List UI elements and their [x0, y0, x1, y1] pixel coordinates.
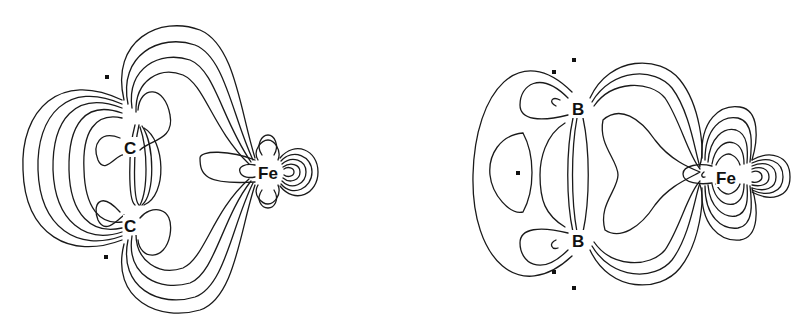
marker-square — [572, 286, 576, 290]
marker-square — [104, 255, 108, 259]
contour-diagram: C C Fe — [0, 0, 805, 323]
atom-label-c-bottom: C — [124, 217, 136, 236]
marker-square — [572, 58, 576, 62]
atom-label-fe-right: Fe — [716, 169, 736, 188]
atom-label-b-top: B — [572, 100, 584, 119]
right-panel-contours — [473, 63, 790, 285]
right-panel-atoms: B B Fe — [516, 58, 738, 290]
marker-square — [552, 70, 556, 74]
atom-label-c-top: C — [124, 139, 136, 158]
contour-plot-svg: C C Fe — [0, 0, 805, 323]
atom-label-fe-left: Fe — [258, 164, 278, 183]
marker-square — [552, 270, 556, 274]
atom-label-b-bottom: B — [572, 232, 584, 251]
marker-square — [516, 171, 520, 175]
marker-square — [105, 75, 109, 79]
